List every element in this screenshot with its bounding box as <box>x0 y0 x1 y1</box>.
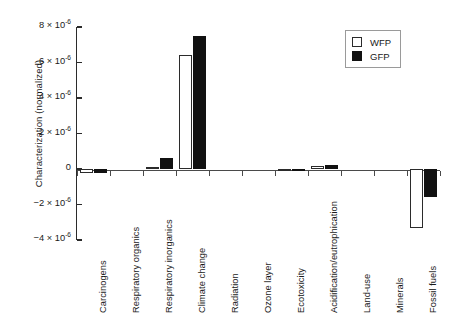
legend-item-gfp: GFP <box>352 49 391 63</box>
x-axis-tick-mark <box>374 171 375 176</box>
legend-swatch-filled-square-icon <box>352 51 362 61</box>
y-axis-tick-label: 4 × 10-6 <box>39 91 71 101</box>
x-axis-tick-label: Fossil fuels <box>428 266 438 313</box>
bar-wfp-ecotoxicity <box>278 169 291 171</box>
x-axis-tick-label: Ecotoxicity <box>296 268 306 313</box>
x-axis-tick-label: Minerals <box>395 277 405 313</box>
chart-figure: Characterization (normalized) 8 × 10-66 … <box>0 0 457 318</box>
legend-label-gfp: GFP <box>370 51 390 62</box>
y-axis-tick-label: 8 × 10-6 <box>39 20 71 30</box>
y-axis-title: Characterization (normalized) <box>33 24 44 224</box>
legend-swatch-open-square-icon <box>352 37 362 47</box>
x-axis-tick-mark <box>242 171 243 176</box>
x-axis-tick-mark <box>143 171 144 176</box>
y-axis-tick-label: −4 × 10-6 <box>34 233 71 243</box>
x-axis-tick-mark <box>176 171 177 176</box>
bar-wfp-carcinogens <box>80 169 93 173</box>
legend-label-wfp: WFP <box>370 37 391 48</box>
zero-baseline <box>77 170 440 171</box>
x-axis-tick-label: Respiratory inorganics <box>164 219 174 313</box>
x-axis-tick-mark <box>341 171 342 176</box>
x-axis-tick-mark <box>209 171 210 176</box>
x-axis-tick-mark <box>308 171 309 176</box>
x-axis-tick-mark <box>77 171 78 176</box>
x-axis-tick-label: Climate change <box>197 248 207 313</box>
x-axis-tick-mark <box>275 171 276 176</box>
bar-gfp-acidification-eutrophication <box>325 165 338 169</box>
legend-item-wfp: WFP <box>352 35 391 49</box>
bar-gfp-climate-change <box>193 36 206 169</box>
bar-wfp-respiratory-inorganics <box>146 167 159 169</box>
bar-gfp-ecotoxicity <box>292 169 305 171</box>
bar-wfp-climate-change <box>179 55 192 169</box>
chart-legend: WFP GFP <box>345 30 401 68</box>
y-axis-tick-label: −2 × 10-6 <box>34 198 71 208</box>
bar-gfp-fossil-fuels <box>424 169 437 197</box>
bar-wfp-acidification-eutrophication <box>311 166 324 169</box>
x-axis-tick-mark <box>110 171 111 176</box>
y-axis-tick-label: 2 × 10-6 <box>39 127 71 137</box>
x-axis-tick-mark <box>440 171 441 176</box>
x-axis-tick-label: Acidification/eutrophication <box>329 201 339 313</box>
x-axis-tick-mark <box>407 171 408 176</box>
bar-gfp-respiratory-inorganics <box>160 158 173 169</box>
bar-wfp-fossil-fuels <box>410 169 423 228</box>
x-axis-tick-label: Radiation <box>230 273 240 313</box>
y-axis-tick-label: 0 <box>66 162 71 172</box>
x-axis-tick-label: Ozone layer <box>263 262 273 313</box>
bar-gfp-carcinogens <box>94 169 107 173</box>
x-axis-tick-label: Respiratory organics <box>131 227 141 313</box>
y-axis-tick-label: 6 × 10-6 <box>39 56 71 66</box>
x-axis-tick-label: Carcinogens <box>98 260 108 313</box>
x-axis-tick-label: Land-use <box>362 274 372 313</box>
